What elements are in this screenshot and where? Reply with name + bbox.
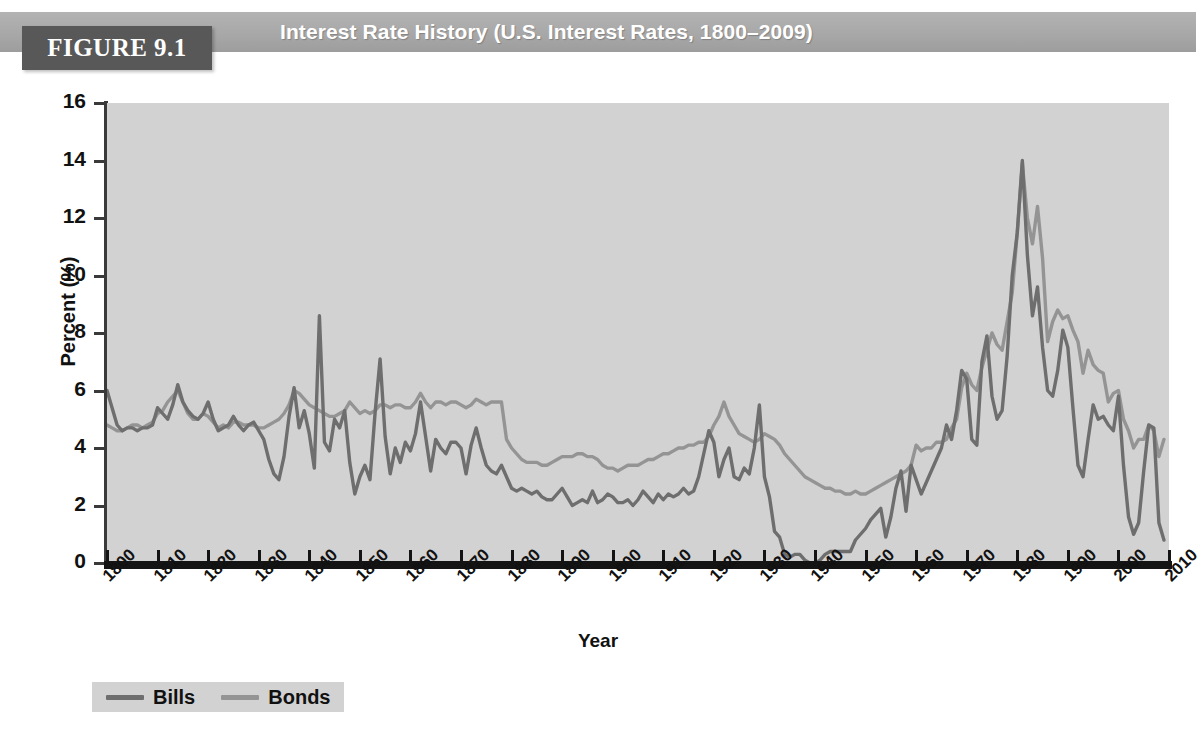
series-line-bills — [107, 161, 1164, 564]
legend-swatch-bills — [106, 695, 144, 700]
y-axis-tick-label: 4 — [40, 434, 86, 458]
plot-area — [107, 103, 1169, 563]
x-axis-tick — [561, 550, 564, 562]
x-axis-tick — [1067, 550, 1070, 562]
legend-item-bonds[interactable]: Bonds — [221, 686, 330, 709]
y-axis-title: Percent (%) — [57, 222, 80, 402]
y-axis-tick-label: 6 — [40, 377, 86, 401]
legend-label: Bills — [153, 686, 195, 709]
y-axis-tick-label: 2 — [40, 492, 86, 516]
x-axis-title: Year — [0, 630, 1196, 652]
y-axis-tick-label: 0 — [40, 549, 86, 573]
x-axis-tick — [713, 550, 716, 562]
y-axis-tick-label: 10 — [40, 262, 86, 286]
chart-plot-svg — [107, 103, 1169, 563]
x-axis-tick — [915, 550, 918, 562]
y-axis-tick-label: 14 — [40, 147, 86, 171]
legend-label: Bonds — [268, 686, 330, 709]
x-axis-tick — [359, 550, 362, 562]
x-axis-tick — [258, 550, 261, 562]
x-axis-tick — [207, 550, 210, 562]
y-axis-tick-label: 12 — [40, 204, 86, 228]
x-axis-tick — [612, 550, 615, 562]
x-axis-tick — [814, 550, 817, 562]
chart-legend: BillsBonds — [92, 682, 344, 712]
x-axis-tick — [460, 550, 463, 562]
legend-item-bills[interactable]: Bills — [106, 686, 195, 709]
y-axis-tick-label: 16 — [40, 89, 86, 113]
x-axis-tick — [157, 550, 160, 562]
x-axis-tick — [865, 550, 868, 562]
y-axis-tick-label: 8 — [40, 319, 86, 343]
x-axis-tick — [966, 550, 969, 562]
x-axis-tick — [1168, 550, 1171, 562]
legend-swatch-bonds — [221, 695, 259, 700]
x-axis-tick — [511, 550, 514, 562]
x-axis-tick — [106, 550, 109, 562]
